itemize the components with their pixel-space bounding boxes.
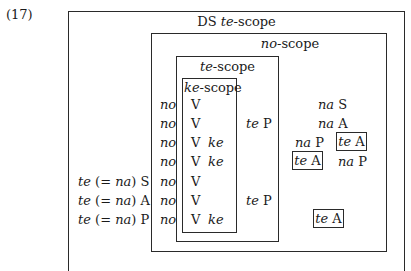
verb: V <box>191 175 200 188</box>
verb: V <box>191 194 200 207</box>
na-p: na P <box>338 155 367 168</box>
te-na-a: te (= na) A <box>78 194 150 207</box>
te-p: te P <box>246 194 272 207</box>
verb: V <box>191 98 200 111</box>
boxed-te-a: te A <box>292 151 323 170</box>
te-p: te P <box>246 117 272 130</box>
no-marker: no <box>160 175 176 188</box>
verb: V <box>191 213 200 226</box>
na-a: na A <box>318 117 348 130</box>
na-p: na P <box>295 136 324 149</box>
boxed-te-a: te A <box>313 209 344 228</box>
verb: V <box>191 136 200 149</box>
ke-marker: ke <box>208 136 224 149</box>
te-scope-label: te-scope <box>176 60 279 73</box>
ke-marker: ke <box>208 155 224 168</box>
ds-te-scope-label: DS te-scope <box>68 15 405 28</box>
no-marker: no <box>160 136 176 149</box>
boxed-te-a: te A <box>336 132 367 151</box>
no-marker: no <box>160 194 176 207</box>
no-scope-label: no-scope <box>230 37 350 50</box>
na-s: na S <box>318 98 347 111</box>
te-na-p: te (= na) P <box>78 213 149 226</box>
ke-scope-label: ke-scope <box>184 81 242 94</box>
no-marker: no <box>160 117 176 130</box>
ke-marker: ke <box>208 213 224 226</box>
verb: V <box>191 155 200 168</box>
no-marker: no <box>160 155 176 168</box>
te-na-s: te (= na) S <box>78 175 149 188</box>
example-number: (17) <box>6 8 33 21</box>
no-marker: no <box>160 98 176 111</box>
no-marker: no <box>160 213 176 226</box>
verb: V <box>191 117 200 130</box>
